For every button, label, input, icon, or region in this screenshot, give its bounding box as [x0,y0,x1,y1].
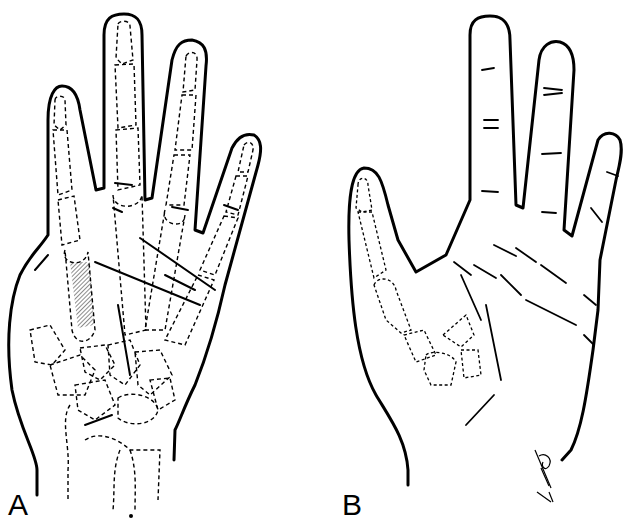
panel-label-a: A [8,490,28,520]
artist-signature [531,448,561,504]
hand-a-illustration [0,0,316,525]
panel-label-b: B [342,490,362,520]
panel-a-hand-skeleton: A [0,0,316,525]
hand-b-illustration [316,0,632,525]
hatched-metacarpal [70,262,94,328]
panel-b-hand-outline: B [316,0,632,525]
